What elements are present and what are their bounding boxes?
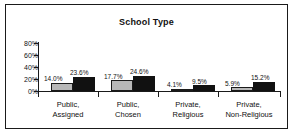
bar-value-label-public-assigned-series-2: 23.6%	[70, 69, 88, 76]
bar-public-assigned-series-1	[51, 83, 73, 91]
bar-value-label-private-religious-series-2: 9.5%	[192, 78, 207, 85]
category-label-line-1: Private,	[216, 100, 282, 110]
bar-private-non-religious-series-2	[253, 82, 275, 91]
category-label-line-2: Non-Religious	[216, 110, 282, 120]
y-axis-ticks: 80% 60% 40% 20% 0%	[0, 0, 38, 134]
bar-value-label-private-religious-series-1: 4.1%	[167, 81, 182, 88]
category-tick-2	[158, 92, 159, 97]
category-label-line-2: Religious	[158, 110, 218, 120]
bar-value-label-private-non-religious-series-2: 15.2%	[251, 74, 269, 81]
chart-title: School Type	[0, 17, 293, 27]
bar-private-non-religious-series-1	[231, 87, 253, 91]
category-label-line-2: Chosen	[98, 110, 158, 120]
bar-group-private-non-religious: 5.9% 15.2%	[223, 43, 278, 91]
bar-value-label-public-chosen-series-1: 17.7%	[104, 73, 122, 80]
x-axis-line	[38, 91, 281, 92]
category-tick-1	[98, 92, 99, 97]
bar-public-chosen-series-2	[133, 76, 155, 91]
category-tick-4	[280, 92, 281, 97]
bar-private-religious-series-2	[193, 85, 215, 91]
category-tick-3	[218, 92, 219, 97]
bar-group-public-assigned: 14.0% 23.6%	[43, 43, 98, 91]
chart-figure: School Type 80% 60% 40% 20% 0% 14.0% 23.…	[0, 0, 293, 134]
bar-public-chosen-series-1	[111, 80, 133, 91]
bar-value-label-private-non-religious-series-1: 5.9%	[225, 80, 240, 87]
category-label-private-religious: Private, Religious	[158, 100, 218, 119]
bar-value-label-public-chosen-series-2: 24.6%	[130, 68, 148, 75]
category-label-public-chosen: Public, Chosen	[98, 100, 158, 119]
bar-public-assigned-series-2	[73, 77, 95, 91]
bar-group-public-chosen: 17.7% 24.6%	[103, 43, 158, 91]
category-label-line-1: Public,	[98, 100, 158, 110]
bar-value-label-public-assigned-series-1: 14.0%	[44, 75, 62, 82]
category-label-private-non-religious: Private, Non-Religious	[216, 100, 282, 119]
category-label-line-1: Public,	[38, 100, 98, 110]
category-label-public-assigned: Public, Assigned	[38, 100, 98, 119]
plot-area: 14.0% 23.6% 17.7% 24.6% 4.1% 9.5% 5.9% 1…	[38, 43, 281, 91]
category-label-line-1: Private,	[158, 100, 218, 110]
category-label-line-2: Assigned	[38, 110, 98, 120]
bar-private-religious-series-1	[171, 89, 193, 91]
bar-group-private-religious: 4.1% 9.5%	[163, 43, 218, 91]
category-tick-0	[38, 92, 39, 97]
